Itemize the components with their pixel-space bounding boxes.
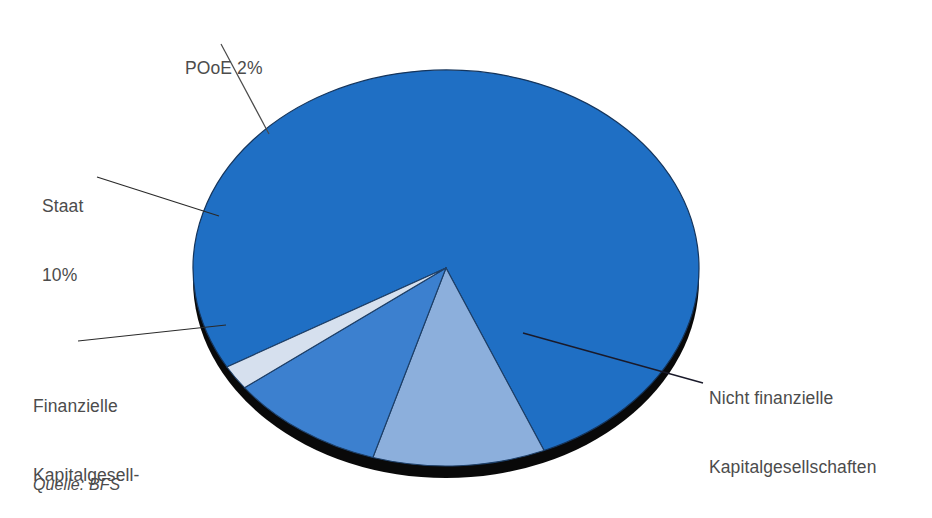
slice-label-nicht-finanzielle-name-2: Kapitalgesellschaften (709, 456, 877, 479)
leader-line-staat (97, 177, 219, 216)
slice-label-nicht-finanzielle: Nicht finanzielle Kapitalgesellschaften … (709, 340, 877, 518)
slice-label-staat-name: Staat (42, 195, 83, 218)
pie-chart-figure: POoE 2% Staat 10% Finanzielle Kapitalges… (0, 0, 932, 518)
slice-label-staat: Staat 10% (42, 148, 83, 334)
slice-label-nicht-finanzielle-name-1: Nicht finanzielle (709, 387, 877, 410)
slice-label-staat-value: 10% (42, 264, 83, 287)
slice-label-pooe-text: POoE 2% (185, 57, 263, 80)
source-note: Quelle: BFS (33, 476, 120, 494)
slice-label-finanzielle-name-1: Finanzielle (33, 395, 139, 418)
slice-label-pooe: POoE 2% (185, 10, 263, 126)
